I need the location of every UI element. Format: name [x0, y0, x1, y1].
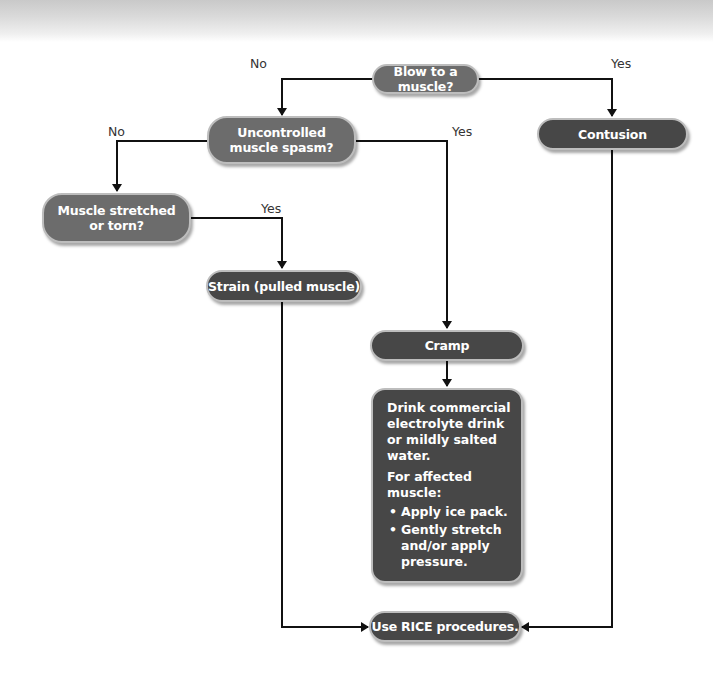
node-cramp-treatment: Drink commercial electrolyte drink or mi…	[371, 388, 523, 583]
edge-blow-spasm	[282, 79, 373, 115]
node-label: Contusion	[578, 127, 647, 142]
node-muscle-stretched: Muscle stretched or torn?	[42, 193, 191, 243]
node-label-line1: Muscle stretched	[58, 203, 176, 218]
edge-stretched-strain	[190, 218, 282, 268]
edge-blow-contusion	[478, 79, 612, 116]
node-cramp: Cramp	[370, 330, 524, 361]
node-contusion: Contusion	[537, 118, 688, 150]
edge-label-spasm-no: No	[108, 124, 125, 139]
node-label: Cramp	[425, 338, 470, 353]
edge-label-stretched-yes: Yes	[261, 201, 281, 216]
bullet-icon: •	[389, 522, 397, 538]
edge-contusion-rice	[522, 150, 612, 627]
edge-strain-rice	[282, 301, 368, 627]
treatment-text: Drink commercial electrolyte drink or mi…	[387, 400, 511, 464]
edge-spasm-cramp	[355, 141, 447, 328]
treatment-list-item: • Apply ice pack.	[387, 504, 511, 520]
node-label-line1: Uncontrolled	[237, 125, 325, 140]
treatment-list-item: • Gently stretch and/or apply pressure.	[387, 522, 511, 570]
node-label: Use RICE procedures.	[371, 619, 518, 634]
node-strain: Strain (pulled muscle)	[206, 270, 362, 302]
edge-spasm-stretched	[117, 141, 208, 191]
node-label-line2: or torn?	[89, 218, 143, 233]
node-blow-to-muscle: Blow to a muscle?	[372, 64, 479, 94]
node-label-line2: muscle spasm?	[230, 140, 334, 155]
node-label: Strain (pulled muscle)	[208, 279, 360, 294]
node-uncontrolled-spasm: Uncontrolled muscle spasm?	[207, 116, 356, 164]
node-label: Blow to a muscle?	[374, 64, 477, 94]
bullet-icon: •	[389, 504, 397, 520]
treatment-subheading: For affected muscle:	[387, 469, 511, 501]
treatment-bullet-text: Apply ice pack.	[401, 504, 508, 519]
node-use-rice: Use RICE procedures.	[369, 611, 521, 642]
connector-lines	[0, 0, 713, 687]
edge-label-blow-yes: Yes	[611, 56, 631, 71]
edge-label-blow-no: No	[250, 56, 267, 71]
edge-label-spasm-yes: Yes	[452, 124, 472, 139]
treatment-list: • Apply ice pack. • Gently stretch and/o…	[387, 504, 511, 570]
treatment-bullet-text: Gently stretch and/or apply pressure.	[401, 522, 502, 569]
